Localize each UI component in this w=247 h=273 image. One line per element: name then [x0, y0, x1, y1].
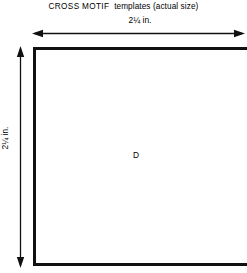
width-dimension-arrow-icon	[30, 26, 247, 39]
motif-name-text: CROSS MOTIF	[49, 2, 110, 11]
width-dimension-label: 2¼ in.	[33, 15, 247, 26]
height-dimension-label: 2¼ in.	[0, 120, 10, 156]
figure-caption: CROSS MOTIF templates (actual size)	[0, 1, 247, 12]
height-dimension-arrow-icon	[14, 44, 27, 270]
caption-detail-text: templates (actual size)	[114, 2, 198, 11]
template-shape-d: D	[33, 47, 247, 266]
template-label-d: D	[36, 150, 236, 160]
figure-canvas: CROSS MOTIF templates (actual size) 2¼ i…	[0, 0, 247, 273]
